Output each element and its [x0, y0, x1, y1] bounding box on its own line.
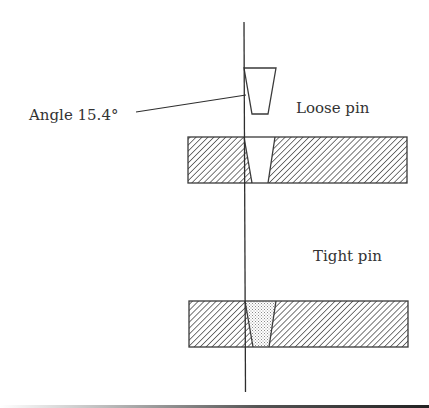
- loose-pin-label: Loose pin: [296, 99, 370, 117]
- plate-left-section: [189, 301, 253, 347]
- plate-right-section: [269, 301, 408, 347]
- plate-left-section: [188, 137, 252, 183]
- loose-pin: [244, 68, 276, 114]
- angle-leader-line: [136, 95, 246, 112]
- taper-pin-diagram: Angle 15.4° Loose pin Tight pin: [0, 0, 429, 408]
- angle-label: Angle 15.4°: [28, 106, 118, 124]
- plate-right-section: [268, 137, 407, 183]
- tight-pin-label: Tight pin: [313, 247, 382, 265]
- plate-with-seated-pin: [189, 301, 408, 347]
- plate-with-empty-hole: [188, 137, 407, 183]
